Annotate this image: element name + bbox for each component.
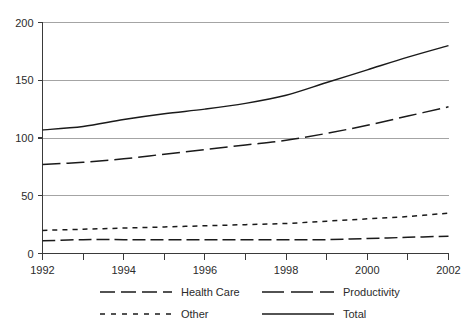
x-tick-marks-group	[43, 254, 449, 260]
x-tick-label-1992: 1992	[30, 264, 54, 276]
y-tick-label-50: 50	[21, 190, 33, 202]
series-line-other	[43, 213, 449, 230]
x-tick-label-1994: 1994	[111, 264, 135, 276]
y-tick-labels-group: 050100150200	[15, 17, 42, 260]
legend-label-other: Other	[181, 308, 209, 320]
series-line-total	[43, 46, 449, 130]
chart-figure: 050100150200 199219941996199820002002 He…	[0, 0, 473, 335]
x-tick-label-2002: 2002	[436, 264, 460, 276]
series-line-productivity	[43, 107, 449, 165]
x-tick-label-1996: 1996	[193, 264, 217, 276]
y-tick-label-200: 200	[15, 17, 33, 29]
legend-label-productivity: Productivity	[343, 286, 400, 298]
data-series-group	[43, 46, 449, 241]
line-chart: 050100150200 199219941996199820002002 He…	[0, 0, 473, 335]
y-tick-label-0: 0	[27, 248, 33, 260]
legend-label-total: Total	[343, 308, 366, 320]
y-tick-label-150: 150	[15, 74, 33, 86]
x-tick-labels-group: 199219941996199820002002	[30, 264, 460, 276]
legend-label-health-care: Health Care	[181, 286, 240, 298]
gridlines-group	[43, 23, 449, 254]
y-tick-label-100: 100	[15, 132, 33, 144]
x-tick-label-1998: 1998	[274, 264, 298, 276]
series-line-health-care	[43, 236, 449, 241]
x-tick-label-2000: 2000	[355, 264, 379, 276]
chart-legend: Health CareProductivityOtherTotal	[100, 286, 400, 320]
